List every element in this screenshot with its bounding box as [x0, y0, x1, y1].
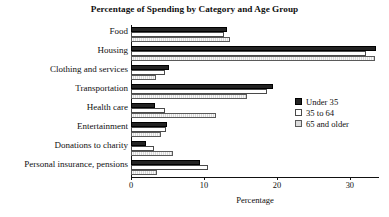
bar-group	[131, 141, 379, 156]
legend-swatch-icon	[295, 109, 302, 116]
legend-item: 35 to 64	[295, 107, 387, 118]
bar	[131, 56, 375, 61]
bar	[131, 89, 267, 94]
bar-group	[131, 65, 379, 80]
legend-item: 65 and older	[295, 118, 387, 129]
x-axis-title: Percentage	[131, 195, 379, 205]
bar-group	[131, 46, 379, 61]
chart-title: Percentage of Spending by Category and A…	[0, 4, 389, 14]
bar	[131, 32, 224, 37]
y-axis-label: Food	[3, 26, 131, 36]
x-tick-mark	[131, 177, 132, 180]
x-tick-label: 0	[119, 181, 143, 190]
bar	[131, 27, 227, 32]
x-tick-mark	[204, 177, 205, 180]
bar	[131, 151, 173, 156]
bar	[131, 94, 247, 99]
bar	[131, 122, 167, 127]
y-axis-label: Personal insurance, pensions	[3, 159, 131, 169]
y-axis-label: Clothing and services	[3, 64, 131, 74]
x-tick-label: 10	[192, 181, 216, 190]
bar-chart: Percentage of Spending by Category and A…	[0, 0, 389, 217]
x-tick-mark	[350, 177, 351, 180]
bar	[131, 46, 376, 51]
legend-label: 35 to 64	[306, 108, 334, 118]
bar	[131, 37, 230, 42]
bar	[131, 108, 165, 113]
legend-label: 65 and older	[306, 119, 349, 129]
x-axis-line	[131, 177, 379, 178]
bar	[131, 70, 165, 75]
y-axis-category-labels: FoodHousingClothing and servicesTranspor…	[0, 25, 131, 177]
bar	[131, 170, 157, 175]
bar	[131, 84, 273, 89]
bar	[131, 141, 146, 146]
legend-swatch-icon	[295, 98, 302, 105]
bar	[131, 65, 169, 70]
y-axis-label: Transportation	[3, 83, 131, 93]
y-axis-label: Housing	[3, 45, 131, 55]
bar	[131, 160, 200, 165]
legend-item: Under 35	[295, 96, 387, 107]
bar	[131, 51, 366, 56]
x-tick-mark	[277, 177, 278, 180]
legend-label: Under 35	[306, 97, 338, 107]
bar	[131, 146, 154, 151]
bar	[131, 132, 161, 137]
bar	[131, 165, 208, 170]
legend-swatch-icon	[295, 120, 302, 127]
bar	[131, 75, 156, 80]
y-axis-label: Donations to charity	[3, 140, 131, 150]
x-tick-label: 30	[338, 181, 362, 190]
bar	[131, 113, 216, 118]
y-axis-label: Health care	[3, 102, 131, 112]
bar-group	[131, 27, 379, 42]
bar	[131, 103, 155, 108]
bar	[131, 127, 166, 132]
x-tick-label: 20	[265, 181, 289, 190]
chart-legend: Under 3535 to 6465 and older	[295, 96, 387, 129]
bar-group	[131, 160, 379, 175]
y-axis-label: Entertainment	[3, 121, 131, 131]
